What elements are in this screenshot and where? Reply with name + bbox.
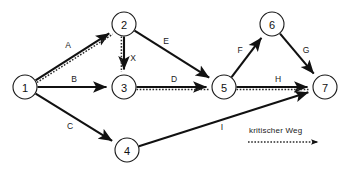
edge-F — [232, 38, 262, 77]
node-1[interactable]: 1 — [13, 75, 37, 99]
edge-C — [36, 94, 112, 141]
node-6[interactable]: 6 — [260, 12, 284, 36]
edge-label-E: E — [163, 36, 169, 46]
legend-label: kritischer Weg — [249, 126, 302, 135]
edge-label-B: B — [71, 74, 77, 84]
node-3[interactable]: 3 — [112, 75, 136, 99]
legend: kritischer Weg — [248, 126, 318, 142]
edge-label-X: X — [130, 53, 136, 63]
node-label-7: 7 — [322, 82, 328, 94]
node-label-5: 5 — [221, 82, 227, 94]
node-label-1: 1 — [22, 82, 28, 94]
network-diagram: 1234567 ABCXEDFGHI kritischer Weg — [0, 0, 348, 169]
node-4[interactable]: 4 — [115, 138, 139, 162]
edge-label-H: H — [275, 74, 281, 84]
node-label-6: 6 — [269, 19, 275, 31]
node-label-3: 3 — [121, 82, 127, 94]
edge-label-C: C — [67, 121, 73, 131]
edge-label-A: A — [65, 40, 71, 50]
edge-labels-layer: ABCXEDFGHI — [65, 36, 309, 132]
diagram-canvas: 1234567 ABCXEDFGHI kritischer Weg — [0, 0, 348, 169]
edge-label-G: G — [303, 45, 310, 55]
edge-E — [135, 31, 210, 78]
edge-I — [139, 92, 308, 146]
node-7[interactable]: 7 — [313, 75, 337, 99]
edge-label-D: D — [171, 74, 177, 84]
node-5[interactable]: 5 — [212, 75, 236, 99]
node-label-4: 4 — [124, 145, 130, 157]
edge-label-F: F — [237, 45, 242, 55]
node-2[interactable]: 2 — [112, 12, 136, 36]
edge-label-I: I — [221, 122, 223, 132]
node-label-2: 2 — [121, 19, 127, 31]
